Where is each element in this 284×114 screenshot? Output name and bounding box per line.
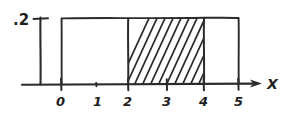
y-axis-value-label: .2: [13, 11, 29, 29]
x-tick-label-3: 3: [162, 94, 171, 109]
hatch-fill-lines: [116, 16, 238, 90]
figure-container: .2 0 1 2 3 4 5 X: [0, 0, 284, 114]
y-axis-group: [34, 18, 49, 85]
x-tick-label-1: 1: [93, 94, 102, 109]
x-tick-label-2: 2: [123, 94, 132, 109]
x-axis-label: X: [266, 76, 279, 92]
y-axis-tick-point-2: [34, 18, 49, 19]
x-tick-label-4: 4: [198, 94, 208, 109]
x-axis-line: [22, 84, 252, 85]
x-tick-label-5: 5: [234, 94, 243, 109]
x-axis-group: [22, 79, 262, 87]
uniform-density-plot: .2 0 1 2 3 4 5 X: [0, 0, 284, 114]
hatch-line: [204, 16, 238, 90]
x-tick-label-0: 0: [56, 94, 65, 109]
hatched-region-group: [116, 16, 238, 90]
